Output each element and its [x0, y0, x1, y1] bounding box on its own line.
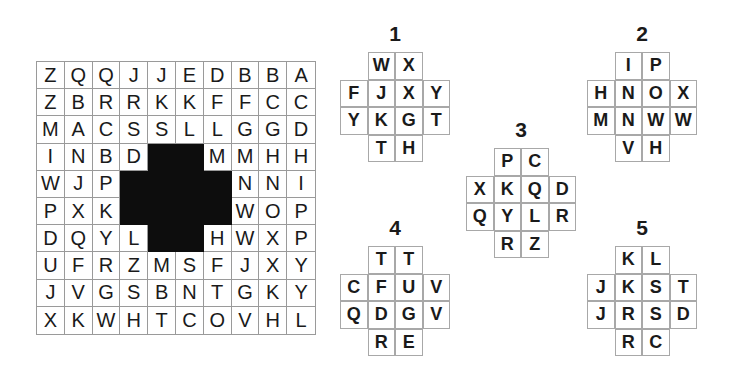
grid-cell[interactable]: B [93, 144, 121, 171]
puzzle-piece-1[interactable]: WXFJXYYKGTTH [340, 52, 450, 162]
grid-cell[interactable]: N [232, 171, 260, 198]
grid-cell[interactable]: F [65, 252, 93, 279]
puzzle-piece-2[interactable]: IPHNOXMNWWVH [587, 52, 697, 162]
grid-hole-cell[interactable] [176, 144, 204, 171]
grid-cell[interactable]: M [232, 144, 260, 171]
grid-cell[interactable]: Y [93, 225, 121, 252]
grid-hole-cell[interactable] [148, 171, 176, 198]
grid-cell[interactable]: Y [287, 280, 315, 307]
grid-cell[interactable]: K [148, 89, 176, 116]
grid-cell[interactable]: I [287, 171, 315, 198]
grid-hole-cell[interactable] [148, 225, 176, 252]
grid-cell[interactable]: E [176, 62, 204, 89]
grid-cell[interactable]: Z [37, 89, 65, 116]
grid-cell[interactable]: T [204, 280, 232, 307]
grid-hole-cell[interactable] [120, 198, 148, 225]
grid-cell[interactable]: F [204, 252, 232, 279]
grid-cell[interactable]: A [287, 62, 315, 89]
grid-cell[interactable]: M [204, 144, 232, 171]
grid-hole-cell[interactable] [148, 198, 176, 225]
grid-cell[interactable]: C [287, 89, 315, 116]
grid-cell[interactable]: Q [65, 62, 93, 89]
puzzle-piece-5[interactable]: KLJKSTJRSDRC [587, 246, 697, 356]
grid-cell[interactable]: G [232, 116, 260, 143]
grid-cell[interactable]: P [287, 198, 315, 225]
grid-cell[interactable]: L [287, 307, 315, 334]
grid-cell[interactable]: G [259, 116, 287, 143]
grid-cell[interactable]: J [65, 171, 93, 198]
grid-cell[interactable]: S [148, 116, 176, 143]
grid-hole-cell[interactable] [204, 198, 232, 225]
grid-cell[interactable]: B [65, 89, 93, 116]
grid-cell[interactable]: H [259, 144, 287, 171]
grid-cell[interactable]: D [204, 62, 232, 89]
grid-cell[interactable]: L [120, 225, 148, 252]
grid-cell[interactable]: B [259, 62, 287, 89]
grid-cell[interactable]: P [287, 225, 315, 252]
grid-cell[interactable]: R [120, 89, 148, 116]
grid-cell[interactable]: Q [93, 62, 121, 89]
grid-cell[interactable]: S [176, 252, 204, 279]
grid-cell[interactable]: W [93, 307, 121, 334]
grid-cell[interactable]: M [37, 116, 65, 143]
grid-cell[interactable]: D [287, 116, 315, 143]
grid-cell[interactable]: C [176, 307, 204, 334]
puzzle-piece-3[interactable]: PCXKQDQYLRRZ [466, 148, 576, 258]
grid-hole-cell[interactable] [120, 171, 148, 198]
grid-hole-cell[interactable] [204, 171, 232, 198]
grid-cell[interactable]: G [93, 280, 121, 307]
grid-cell[interactable]: J [232, 252, 260, 279]
puzzle-piece-4[interactable]: TTCFUVQDGVRE [340, 246, 450, 356]
grid-cell[interactable]: W [232, 225, 260, 252]
grid-cell[interactable]: T [148, 307, 176, 334]
grid-cell[interactable]: H [120, 307, 148, 334]
grid-cell[interactable]: J [120, 62, 148, 89]
grid-cell[interactable]: B [148, 280, 176, 307]
grid-cell[interactable]: D [120, 144, 148, 171]
grid-cell[interactable]: I [37, 144, 65, 171]
grid-hole-cell[interactable] [176, 225, 204, 252]
grid-cell[interactable]: W [232, 198, 260, 225]
grid-cell[interactable]: Z [37, 62, 65, 89]
grid-cell[interactable]: N [259, 171, 287, 198]
grid-hole-cell[interactable] [176, 171, 204, 198]
grid-cell[interactable]: G [232, 280, 260, 307]
grid-cell[interactable]: S [120, 116, 148, 143]
grid-cell[interactable]: H [204, 225, 232, 252]
grid-hole-cell[interactable] [176, 198, 204, 225]
grid-cell[interactable]: C [259, 89, 287, 116]
grid-cell[interactable]: V [232, 307, 260, 334]
grid-cell[interactable]: L [176, 116, 204, 143]
grid-cell[interactable]: C [93, 116, 121, 143]
grid-cell[interactable]: X [259, 252, 287, 279]
grid-cell[interactable]: X [37, 307, 65, 334]
grid-cell[interactable]: K [65, 307, 93, 334]
grid-cell[interactable]: R [93, 89, 121, 116]
grid-cell[interactable]: F [232, 89, 260, 116]
grid-cell[interactable]: K [259, 280, 287, 307]
grid-cell[interactable]: V [65, 280, 93, 307]
grid-cell[interactable]: B [232, 62, 260, 89]
grid-cell[interactable]: Q [65, 225, 93, 252]
grid-cell[interactable]: J [37, 280, 65, 307]
grid-cell[interactable]: R [93, 252, 121, 279]
grid-cell[interactable]: K [176, 89, 204, 116]
grid-cell[interactable]: A [65, 116, 93, 143]
grid-cell[interactable]: O [204, 307, 232, 334]
grid-cell[interactable]: X [259, 225, 287, 252]
grid-cell[interactable]: M [148, 252, 176, 279]
grid-cell[interactable]: N [176, 280, 204, 307]
grid-cell[interactable]: U [37, 252, 65, 279]
grid-cell[interactable]: P [37, 198, 65, 225]
grid-cell[interactable]: O [259, 198, 287, 225]
grid-cell[interactable]: P [93, 171, 121, 198]
grid-cell[interactable]: L [204, 116, 232, 143]
grid-hole-cell[interactable] [148, 144, 176, 171]
grid-cell[interactable]: Z [120, 252, 148, 279]
grid-cell[interactable]: D [37, 225, 65, 252]
grid-cell[interactable]: W [37, 171, 65, 198]
grid-cell[interactable]: K [93, 198, 121, 225]
grid-cell[interactable]: Y [287, 252, 315, 279]
grid-cell[interactable]: X [65, 198, 93, 225]
grid-cell[interactable]: H [259, 307, 287, 334]
